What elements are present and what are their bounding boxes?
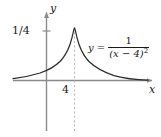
equation-denominator-exponent: 2: [144, 47, 148, 55]
y-intercept-tick-label: 1/4: [12, 25, 30, 36]
equation-denominator-base: (x − 4): [109, 48, 144, 59]
y-axis-label: y: [50, 3, 56, 14]
x-axis-tick-label-4: 4: [62, 84, 69, 95]
function-graph-figure: y x 1/4 4 y = 1 (x − 4)2: [0, 0, 161, 137]
equation-denominator: (x − 4)2: [108, 48, 149, 59]
equation-numerator: 1: [124, 36, 134, 47]
equation-fraction: 1 (x − 4)2: [108, 36, 149, 59]
function-equation-label: y = 1 (x − 4)2: [88, 36, 149, 59]
graph-canvas: [0, 0, 161, 137]
x-axis-label: x: [149, 84, 155, 95]
equation-left-hand-side: y =: [88, 43, 105, 53]
